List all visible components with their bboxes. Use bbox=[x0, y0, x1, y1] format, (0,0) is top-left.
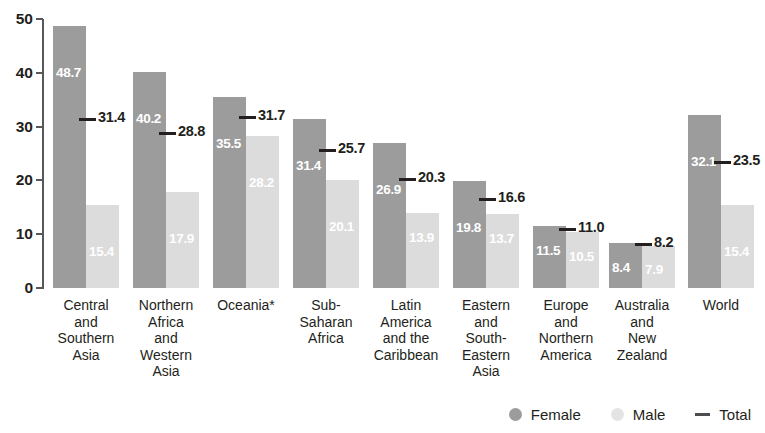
bar-value-male: 7.9 bbox=[645, 263, 674, 277]
total-marker-dash bbox=[159, 132, 176, 135]
bar-value-male: 17.9 bbox=[169, 232, 198, 246]
total-value-label: 28.8 bbox=[178, 124, 205, 139]
x-axis-category-label: Eastern and South- Eastern Asia bbox=[442, 297, 530, 380]
legend-label: Female bbox=[531, 407, 581, 422]
total-marker-dash bbox=[79, 118, 96, 121]
bar-value-male: 10.5 bbox=[569, 250, 598, 264]
legend-item[interactable]: Female bbox=[509, 407, 581, 422]
bar-group: 40.217.928.8 bbox=[133, 19, 199, 288]
bar-group: 11.510.511.0 bbox=[533, 19, 599, 288]
bar-group: 26.913.920.3 bbox=[373, 19, 439, 288]
total-value-label: 8.2 bbox=[654, 235, 673, 250]
bar-value-male: 15.4 bbox=[89, 245, 118, 259]
y-axis-tick-label: 0 bbox=[0, 280, 33, 296]
bar-female bbox=[373, 143, 406, 288]
total-value-label: 20.3 bbox=[418, 170, 445, 185]
bar-value-female: 40.2 bbox=[136, 112, 165, 126]
x-axis-category-label: Australia and New Zealand bbox=[598, 297, 686, 363]
y-axis-tick-label: 40 bbox=[0, 65, 33, 81]
bar-value-female: 48.7 bbox=[56, 66, 85, 80]
bar-female bbox=[133, 72, 166, 288]
bar-male bbox=[326, 180, 359, 288]
legend-label: Male bbox=[633, 407, 666, 422]
bar-value-male: 13.9 bbox=[409, 231, 438, 245]
plot-area: 48.715.431.440.217.928.835.528.231.731.4… bbox=[42, 19, 759, 288]
bar-value-male: 15.4 bbox=[724, 245, 753, 259]
x-axis-category-label: World bbox=[677, 297, 765, 314]
bar-male bbox=[486, 214, 519, 288]
legend-dash-icon bbox=[695, 413, 710, 416]
legend-item[interactable]: Male bbox=[611, 407, 666, 422]
bar-group: 31.420.125.7 bbox=[293, 19, 359, 288]
x-axis-category-label: Latin America and the Caribbean bbox=[362, 297, 450, 363]
total-value-label: 23.5 bbox=[733, 153, 760, 168]
total-value-label: 11.0 bbox=[578, 220, 604, 235]
bar-value-female: 35.5 bbox=[216, 137, 245, 151]
bar-value-female: 26.9 bbox=[376, 183, 405, 197]
total-marker-dash bbox=[714, 161, 731, 164]
y-axis-tick-label: 20 bbox=[0, 172, 33, 188]
bar-male bbox=[246, 136, 279, 288]
x-axis-category-label: Europe and Northern America bbox=[522, 297, 610, 363]
bar-female bbox=[688, 115, 721, 288]
total-marker-dash bbox=[559, 228, 576, 231]
bar-group: 48.715.431.4 bbox=[53, 19, 119, 288]
bar-value-male: 13.7 bbox=[489, 232, 518, 246]
bar-female bbox=[213, 97, 246, 288]
bar-value-female: 8.4 bbox=[612, 261, 641, 275]
total-marker-dash bbox=[239, 116, 256, 119]
total-value-label: 31.7 bbox=[258, 108, 285, 123]
bar-group: 19.813.716.6 bbox=[453, 19, 519, 288]
bar-group: 32.115.423.5 bbox=[688, 19, 754, 288]
chart-legend: FemaleMaleTotal bbox=[0, 401, 759, 427]
bar-group: 35.528.231.7 bbox=[213, 19, 279, 288]
bar-value-male: 20.1 bbox=[329, 220, 358, 234]
total-marker-dash bbox=[479, 198, 496, 201]
legend-circle-icon bbox=[611, 408, 624, 421]
x-axis-category-label: Northern Africa and Western Asia bbox=[122, 297, 210, 380]
bar-value-male: 28.2 bbox=[249, 176, 278, 190]
y-axis-tick-label: 30 bbox=[0, 119, 33, 135]
y-axis-tick-label: 50 bbox=[0, 11, 33, 27]
bar-value-female: 11.5 bbox=[536, 244, 565, 258]
bar-value-female: 19.8 bbox=[456, 221, 485, 235]
bar-value-female: 31.4 bbox=[296, 159, 325, 173]
y-axis-tick-label: 10 bbox=[0, 226, 33, 242]
bar-female bbox=[293, 119, 326, 288]
legend-item[interactable]: Total bbox=[695, 407, 751, 422]
x-axis-category-label: Oceania* bbox=[202, 297, 290, 314]
x-axis-category-label: Central and Southern Asia bbox=[42, 297, 130, 363]
total-value-label: 16.6 bbox=[498, 190, 525, 205]
legend-label: Total bbox=[719, 407, 751, 422]
total-marker-dash bbox=[635, 243, 652, 246]
total-value-label: 25.7 bbox=[338, 141, 365, 156]
total-marker-dash bbox=[399, 178, 416, 181]
bar-male bbox=[406, 213, 439, 288]
bar-group: 8.47.98.2 bbox=[609, 19, 675, 288]
total-value-label: 31.4 bbox=[98, 110, 125, 125]
x-axis-category-label: Sub- Saharan Africa bbox=[282, 297, 370, 347]
total-marker-dash bbox=[319, 149, 336, 152]
legend-circle-icon bbox=[509, 408, 522, 421]
